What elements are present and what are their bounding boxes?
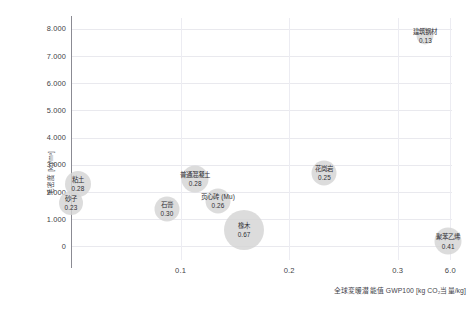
gridline-vertical <box>289 18 290 260</box>
gridline-horizontal <box>72 246 452 247</box>
bubble-chart: 8.0007.0006.0005.0004.0003.0002.0001.000… <box>0 0 472 309</box>
gridline-horizontal <box>72 29 452 30</box>
x-axis-tick-label: 0.2 <box>284 266 295 275</box>
x-axis-tick-labels: 0.10.20.36.0 <box>72 266 452 280</box>
gridline-horizontal <box>72 110 452 111</box>
bubble-point[interactable] <box>155 196 180 221</box>
gridline-vertical <box>450 18 451 260</box>
y-axis-tick-label: 7.000 <box>22 52 66 61</box>
bubble-point[interactable] <box>435 228 462 255</box>
gridline-horizontal <box>72 192 452 193</box>
gridline-horizontal <box>72 165 452 166</box>
gridline-vertical <box>181 18 182 260</box>
bubble-point[interactable] <box>206 188 231 213</box>
y-axis-tick-label: 0 <box>22 242 66 251</box>
gridline-horizontal <box>72 56 452 57</box>
x-axis-tick-label: 6.0 <box>445 266 456 275</box>
y-axis-tick-label: 6.000 <box>22 79 66 88</box>
x-axis-title: 全球変暖潜能值 GWP100 [kg CO₂当量/kg] <box>0 285 466 295</box>
x-axis-tick-label: 0.3 <box>392 266 403 275</box>
y-axis-tick-label: 8.000 <box>22 24 66 33</box>
y-axis-tick-label: 3.000 <box>22 160 66 169</box>
gridline-horizontal <box>72 83 452 84</box>
gridline-horizontal <box>72 138 452 139</box>
gridline-horizontal <box>72 219 452 220</box>
y-axis-title: 毛密度 [kg/m³] <box>45 113 55 233</box>
y-axis-tick-label: 5.000 <box>22 106 66 115</box>
bubble-point[interactable] <box>182 165 209 192</box>
bubble-point[interactable] <box>312 160 337 185</box>
y-axis-tick-labels: 8.0007.0006.0005.0004.0003.0002.0001.000… <box>18 18 66 260</box>
bubble-point[interactable] <box>417 27 434 44</box>
y-axis-tick-label: 4.000 <box>22 133 66 142</box>
x-axis-tick-label: 0.1 <box>175 266 186 275</box>
gridline-vertical <box>398 18 399 260</box>
y-axis-tick-label: 2.000 <box>22 188 66 197</box>
bubble-point[interactable] <box>59 191 83 215</box>
bubble-point[interactable] <box>224 210 264 250</box>
y-axis-tick-label: 1.000 <box>22 215 66 224</box>
plot-area: 粘土0.28砂子0.23普通混凝土0.28石膏0.30页心砖 (Mu)0.26橡… <box>72 18 452 260</box>
